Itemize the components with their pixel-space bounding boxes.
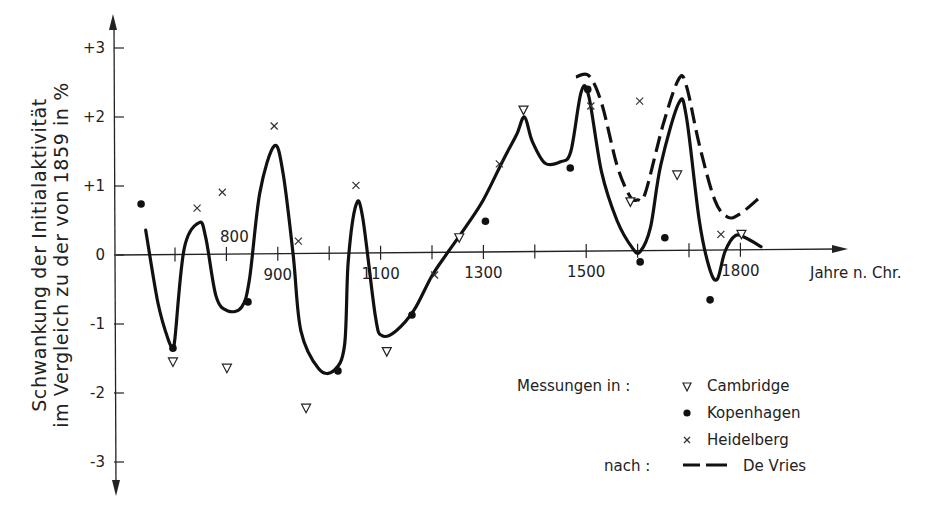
- cambridge-point: [222, 364, 231, 373]
- x-tick-label: 1500: [567, 263, 605, 281]
- heidelberg-point: [194, 205, 201, 212]
- heidelberg-point: [219, 189, 226, 196]
- cambridge-point: [673, 171, 682, 180]
- x-ticks: 8009001100130015001800: [175, 228, 759, 284]
- y-axis-title-line-1: Schwankung der Initialaktivität: [28, 98, 50, 412]
- kopenhagen-point: [566, 164, 574, 172]
- x-tick-label: 800: [220, 228, 249, 246]
- legend-measurements-label: Messungen in :: [517, 377, 630, 395]
- y-ticks: +3+2+10-1-2-3: [83, 39, 124, 471]
- legend-label-heidelberg: Heidelberg: [707, 431, 789, 449]
- legend-entry-heidelberg: Heidelberg: [684, 431, 789, 449]
- dot-icon: [683, 409, 690, 416]
- chart: Schwankung der Initialaktivität im Vergl…: [0, 0, 935, 514]
- y-axis-arrow-up-icon: [109, 14, 117, 30]
- y-tick-label: +3: [83, 39, 105, 57]
- y-axis-arrow-down-icon: [112, 480, 120, 496]
- x-tick-label: 900: [263, 266, 292, 284]
- y-tick-label: +2: [83, 108, 105, 126]
- y-axis-title: Schwankung der Initialaktivität im Vergl…: [28, 82, 72, 428]
- cambridge-point: [519, 106, 528, 115]
- legend-label-de-vries: De Vries: [743, 457, 806, 475]
- kopenhagen-point: [408, 311, 416, 319]
- y-axis-title-line-2: im Vergleich zu der von 1859 in %: [50, 82, 72, 428]
- heidelberg-point: [717, 231, 724, 238]
- legend: Messungen in : Cambridge Kopenhagen Heid…: [517, 377, 806, 475]
- markers: [137, 86, 746, 413]
- y-tick-label: -1: [90, 315, 105, 333]
- x-tick-label: 1800: [721, 262, 759, 280]
- x-axis-arrow-right-icon: [832, 245, 848, 253]
- y-tick-label: -3: [90, 453, 105, 471]
- cambridge-point: [626, 198, 635, 207]
- kopenhagen-point: [661, 234, 669, 242]
- triangle-down-icon: [683, 383, 691, 391]
- axes: +3+2+10-1-2-3 8009001100130015001800: [83, 14, 848, 496]
- heidelberg-point: [295, 238, 302, 245]
- x-axis: [116, 249, 838, 255]
- cambridge-point: [168, 358, 177, 367]
- kopenhagen-point: [482, 217, 490, 225]
- x-mark-icon: [684, 437, 690, 443]
- x-axis-title: Jahre n. Chr.: [809, 264, 902, 282]
- kopenhagen-point: [334, 367, 342, 375]
- kopenhagen-point: [706, 296, 714, 304]
- legend-entry-kopenhagen: Kopenhagen: [683, 404, 800, 422]
- legend-source-label: nach :: [604, 457, 650, 475]
- y-tick-label: +1: [83, 177, 105, 195]
- cambridge-point: [382, 348, 391, 357]
- x-tick-label: 1300: [464, 264, 502, 282]
- y-tick-label: 0: [95, 246, 105, 264]
- kopenhagen-point: [137, 200, 145, 208]
- legend-label-cambridge: Cambridge: [707, 377, 789, 395]
- kopenhagen-point: [169, 344, 177, 352]
- x-tick-label: 1100: [362, 265, 400, 283]
- heidelberg-point: [352, 182, 359, 189]
- legend-entry-cambridge: Cambridge: [683, 377, 789, 395]
- legend-label-kopenhagen: Kopenhagen: [707, 404, 800, 422]
- kopenhagen-point: [244, 298, 252, 306]
- heidelberg-point: [636, 98, 643, 105]
- y-axis: [114, 24, 116, 488]
- y-tick-label: -2: [90, 384, 105, 402]
- de-vries-dashed-curve: [576, 74, 761, 218]
- legend-entry-de-vries: De Vries: [683, 457, 806, 475]
- heidelberg-point: [271, 122, 278, 129]
- kopenhagen-point: [636, 258, 644, 266]
- curves: [146, 74, 761, 374]
- cambridge-point: [302, 404, 311, 413]
- kopenhagen-point: [584, 86, 592, 94]
